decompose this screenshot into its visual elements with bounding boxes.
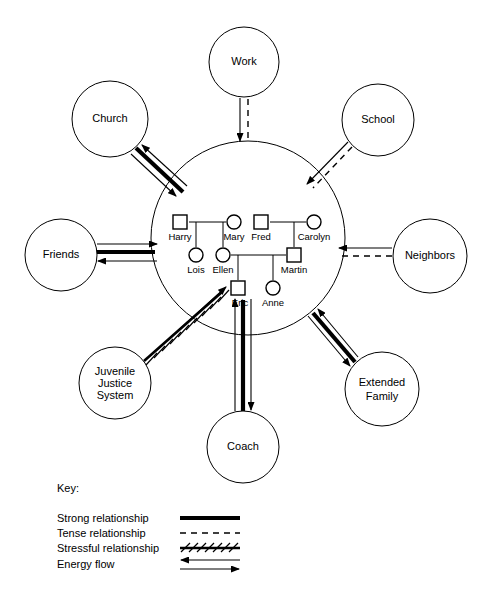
external-node-label-coach: Coach xyxy=(227,440,259,452)
legend-item-strong: Strong relationship xyxy=(57,512,240,524)
external-node-school[interactable]: School xyxy=(342,84,414,156)
connection-work xyxy=(240,98,248,143)
genogram-link-harry-mary xyxy=(189,222,226,247)
genogram-person-harry: Harry xyxy=(168,215,191,242)
genogram-person-lois: Lois xyxy=(187,248,205,275)
ecomap-canvas: Harry Mary Fred Carolyn Lois Ellen xyxy=(0,0,488,596)
stress-hatch-marks xyxy=(146,290,229,365)
external-node-label-extended-line1: Extended xyxy=(359,376,405,388)
legend-label-energy: Energy flow xyxy=(57,558,115,570)
external-node-friends[interactable]: Friends xyxy=(25,219,97,291)
person-label-mary: Mary xyxy=(223,231,244,242)
external-node-label-juvenile-line2: Justice xyxy=(98,377,132,389)
legend-label-strong: Strong relationship xyxy=(57,512,149,524)
genogram-person-mary: Mary xyxy=(223,215,244,242)
person-label-fred: Fred xyxy=(251,231,271,242)
genogram-person-anne: Anne xyxy=(262,281,284,308)
genogram-person-ellen: Ellen xyxy=(212,248,233,275)
legend: Key: Strong relationship Tense relations… xyxy=(57,482,240,570)
connection-extended-family xyxy=(308,309,358,366)
external-node-label-neighbors: Neighbors xyxy=(405,249,456,261)
connection-juvenile-justice xyxy=(144,287,229,365)
external-node-work[interactable]: Work xyxy=(209,27,279,97)
external-node-label-friends: Friends xyxy=(43,248,80,260)
genogram-link-ellen-martin xyxy=(231,255,286,280)
genogram-person-fred: Fred xyxy=(251,215,271,242)
external-node-label-juvenile-line1: Juvenile xyxy=(95,365,135,377)
external-node-label-extended-line2: Family xyxy=(366,390,399,402)
external-node-neighbors[interactable]: Neighbors xyxy=(393,219,467,293)
genogram-person-eric: Eric xyxy=(231,281,248,308)
external-node-label-school: School xyxy=(361,113,395,125)
legend-label-stressful: Stressful relationship xyxy=(57,542,159,554)
external-node-label-church: Church xyxy=(92,112,127,124)
connection-school xyxy=(307,142,352,188)
legend-item-stressful: Stressful relationship xyxy=(57,542,240,554)
person-label-carolyn: Carolyn xyxy=(298,231,331,242)
connection-friends xyxy=(97,244,157,261)
legend-item-tense: Tense relationship xyxy=(57,527,240,539)
external-node-extended-family[interactable]: Extended Family xyxy=(345,352,419,426)
legend-item-energy-flow: Energy flow xyxy=(57,558,240,570)
person-label-martin: Martin xyxy=(281,264,307,275)
connection-coach xyxy=(235,299,251,411)
person-label-harry: Harry xyxy=(168,231,191,242)
external-node-label-juvenile-line3: System xyxy=(97,389,134,401)
genogram-person-carolyn: Carolyn xyxy=(298,215,331,242)
person-label-ellen: Ellen xyxy=(212,264,233,275)
legend-label-tense: Tense relationship xyxy=(57,527,146,539)
ecomap-diagram: Harry Mary Fred Carolyn Lois Ellen xyxy=(0,0,488,596)
external-node-juvenile-justice-system[interactable]: Juvenile Justice System xyxy=(79,347,151,419)
person-label-eric: Eric xyxy=(232,297,249,308)
person-label-lois: Lois xyxy=(187,264,205,275)
external-node-church[interactable]: Church xyxy=(72,81,148,157)
person-label-anne: Anne xyxy=(262,297,284,308)
legend-title: Key: xyxy=(57,482,79,494)
genogram-layer: Harry Mary Fred Carolyn Lois Ellen xyxy=(168,215,330,308)
genogram-person-martin: Martin xyxy=(281,248,307,275)
connection-neighbors xyxy=(339,248,392,256)
external-node-label-work: Work xyxy=(231,55,257,67)
external-node-coach[interactable]: Coach xyxy=(207,411,279,483)
